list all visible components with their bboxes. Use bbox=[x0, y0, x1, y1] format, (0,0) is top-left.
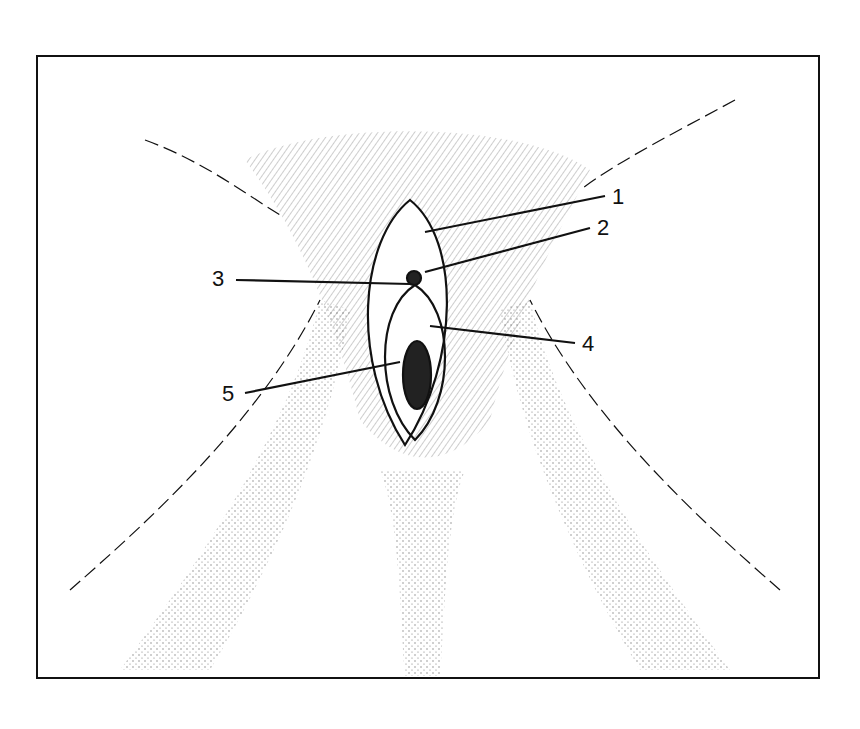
callout-label-2: 2 bbox=[597, 217, 609, 239]
callout-label-4: 4 bbox=[582, 333, 594, 355]
anatomical-diagram bbox=[0, 0, 860, 729]
callout-label-3: 3 bbox=[212, 268, 224, 290]
callout-label-5: 5 bbox=[222, 383, 234, 405]
callout-label-1: 1 bbox=[612, 186, 624, 208]
